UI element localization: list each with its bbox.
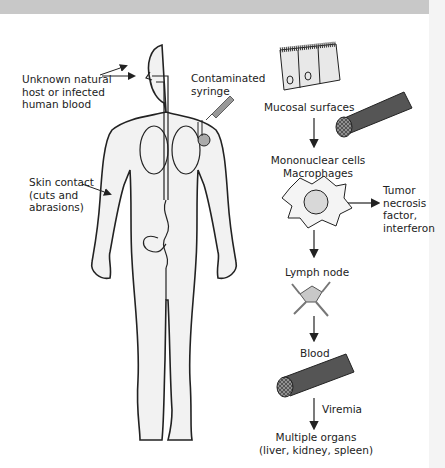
label-line: (liver, kidney, spleen) <box>258 444 374 457</box>
blood-vessel-icon-2 <box>277 354 354 397</box>
lymph-node-icon <box>292 282 330 316</box>
blood-vessel-icon-1 <box>336 92 412 137</box>
label-line: host or infected <box>22 86 112 99</box>
diagram-canvas <box>0 0 445 468</box>
label-line: Contaminated <box>191 72 265 85</box>
label-line: Macrophages <box>268 167 368 180</box>
label-mucosal: Mucosal surfaces <box>264 101 354 114</box>
syringe-icon <box>206 96 234 120</box>
label-syringe: Contaminated syringe <box>191 72 265 97</box>
label-multiple-organs: Multiple organs (liver, kidney, spleen) <box>258 431 374 456</box>
macrophage-cell-icon <box>282 176 352 228</box>
label-line: Skin contact <box>29 176 94 189</box>
label-line: abrasions) <box>29 201 94 214</box>
label-natural-host: Unknown natural host or infected human b… <box>22 73 112 111</box>
mucosal-epithelium-icon <box>280 44 340 90</box>
label-line: factor, <box>383 209 435 222</box>
human-body-figure <box>92 45 237 440</box>
label-line: Mononuclear cells <box>268 154 368 167</box>
label-skin-contact: Skin contact (cuts and abrasions) <box>29 176 94 214</box>
label-mononuclear: Mononuclear cells Macrophages <box>268 154 368 179</box>
label-line: necrosis <box>383 197 435 210</box>
label-line: human blood <box>22 98 112 111</box>
label-cytokines: Tumor necrosis factor, interferon <box>383 184 435 234</box>
label-line: Tumor <box>383 184 435 197</box>
label-lymph-node: Lymph node <box>285 266 349 279</box>
label-viremia: Viremia <box>322 403 362 416</box>
label-line: Unknown natural <box>22 73 112 86</box>
label-line: Multiple organs <box>258 431 374 444</box>
label-line: interferon <box>383 222 435 235</box>
label-blood: Blood <box>300 347 330 360</box>
label-line: syringe <box>191 85 265 98</box>
label-line: (cuts and <box>29 189 94 202</box>
